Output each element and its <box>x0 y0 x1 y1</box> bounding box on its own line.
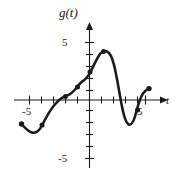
y-tick-label-positive-5: 5 <box>62 37 68 48</box>
graph-figure: g(t) t -5 5 5 -5 <box>0 0 180 178</box>
curve-marked-points <box>19 49 152 128</box>
point-interior-mid-left <box>75 85 80 90</box>
y-axis <box>85 22 94 168</box>
point-zero-crossing-left <box>63 94 68 99</box>
function-plot <box>0 0 180 178</box>
point-interior-rise <box>88 70 93 75</box>
x-axis <box>14 96 168 105</box>
point-interior-left <box>40 123 45 128</box>
point-left-endpoint <box>19 121 24 126</box>
y-tick-label-negative-5: -5 <box>58 153 67 164</box>
x-axis-label: t <box>166 95 169 106</box>
curve-g-of-t <box>22 51 150 133</box>
point-right-endpoint <box>146 86 151 91</box>
x-tick-label-positive-5: 5 <box>137 106 143 117</box>
y-axis-label: g(t) <box>59 6 78 19</box>
y-axis-arrowhead <box>86 22 93 30</box>
point-local-maximum <box>101 49 106 54</box>
x-tick-label-negative-5: -5 <box>22 106 31 117</box>
